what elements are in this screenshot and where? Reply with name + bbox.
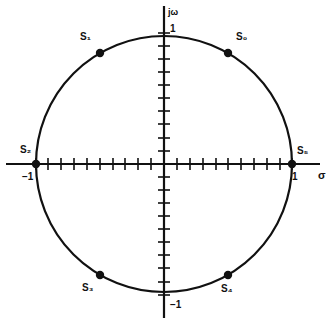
- axis-label-sigma: σ: [318, 170, 326, 181]
- pole-marker-s0: [224, 49, 232, 57]
- pole-label-s3: S₃: [82, 283, 94, 293]
- axis-value-left-minus-one: −1: [22, 172, 33, 182]
- axis-value-bottom-minus-one: −1: [170, 300, 181, 310]
- axis-label-jomega: jω: [168, 8, 178, 17]
- pole-marker-s4: [224, 271, 232, 279]
- pole-marker-s1: [96, 49, 104, 57]
- pole-label-s4: S₄: [221, 284, 233, 294]
- pole-marker-s3: [96, 271, 104, 279]
- pole-label-s5: S₅: [297, 146, 309, 156]
- axis-value-right-one: 1: [292, 172, 298, 182]
- pole-label-s1: S₁: [80, 32, 91, 42]
- pole-label-s2: S₂: [20, 145, 32, 155]
- pole-marker-s2: [32, 160, 40, 168]
- axis-value-top-one: 1: [170, 24, 176, 34]
- pole-label-s0: S₀: [236, 32, 248, 42]
- pole-marker-s5: [288, 160, 296, 168]
- plot-canvas: [0, 0, 332, 324]
- pole-zero-plot-figure: S₀ S₁ S₂ S₃ S₄ S₅ 1 −1 −1 1 jω σ: [0, 0, 332, 324]
